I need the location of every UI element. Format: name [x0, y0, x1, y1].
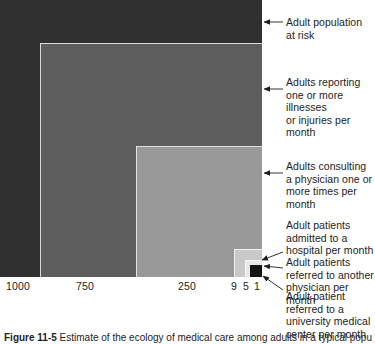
- axis-tick-250: 250: [178, 280, 196, 293]
- figure-caption-label: Figure 11-5: [4, 332, 57, 343]
- callout-adults-reporting-illness: Adults reporting one or more illnesses o…: [286, 76, 375, 139]
- leader-line-referred-physician: [264, 266, 283, 268]
- plot-area: [0, 0, 262, 277]
- block-adults-referred-university: [250, 265, 262, 277]
- axis-tick-1: 1: [254, 280, 260, 293]
- axis-tick-5: 5: [243, 280, 249, 293]
- x-axis-tick-labels: 1000 750 250 9 5 1: [0, 280, 290, 296]
- axis-tick-750: 750: [76, 280, 94, 293]
- leader-line-admitted-hospital: [262, 252, 283, 260]
- axis-tick-1000: 1000: [6, 280, 30, 293]
- callout-adult-population-at-risk: Adult population at risk: [286, 16, 362, 41]
- axis-tick-9: 9: [231, 280, 237, 293]
- figure-caption: Figure 11-5 Estimate of the ecology of m…: [4, 332, 372, 344]
- callout-adults-admitted-hospital: Adult patients admitted to a hospital pe…: [286, 219, 373, 257]
- figure-caption-text: Estimate of the ecology of medical care …: [60, 332, 372, 343]
- callout-adults-consulting-physician: Adults consulting a physician one or mor…: [286, 160, 375, 210]
